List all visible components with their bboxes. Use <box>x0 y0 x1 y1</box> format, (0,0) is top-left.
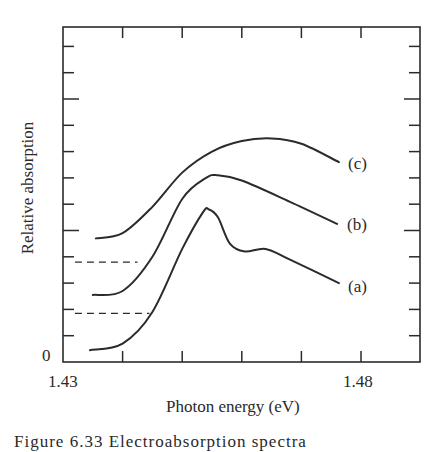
plot-frame <box>63 27 420 362</box>
series-label-b: (b) <box>347 215 367 235</box>
x-axis-label: Photon energy (eV) <box>166 397 300 417</box>
x-tick-label-min: 1.43 <box>48 372 78 392</box>
curve-b <box>93 175 337 295</box>
y-tick-label-zero: 0 <box>42 346 51 366</box>
curve-c <box>96 138 339 238</box>
y-axis-label: Relative absorption <box>18 122 38 255</box>
x-tick-label-max: 1.48 <box>343 372 373 392</box>
series-label-c: (c) <box>348 154 367 174</box>
figure-caption: Figure 6.33 Electroabsorption spectra <box>14 432 307 452</box>
series-label-a: (a) <box>348 277 367 297</box>
